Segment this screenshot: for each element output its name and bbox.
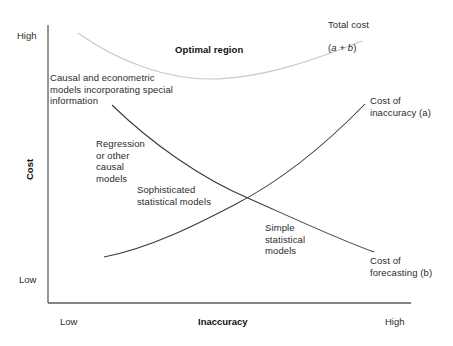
annotation-optimal-region: Optimal region	[175, 44, 243, 56]
x-axis-tick-low: Low	[60, 316, 77, 327]
annotation-total-cost: Total cost (a + b)	[328, 7, 369, 65]
y-axis-tick-high: High	[17, 30, 37, 41]
annotation-total-cost-line1: Total cost	[328, 19, 369, 31]
annotation-simple-models: Simple statistical models	[265, 222, 305, 257]
annotation-causal-models: Causal and econometric models incorporat…	[50, 72, 173, 107]
annotation-total-cost-line2: (a + b)	[328, 42, 369, 54]
curve-cost-of-forecasting	[112, 105, 374, 252]
x-axis-title: Inaccuracy	[198, 316, 248, 327]
y-axis-tick-low: Low	[19, 274, 36, 285]
y-axis-title: Cost	[24, 159, 35, 180]
total-cost-paren-close: )	[353, 42, 356, 53]
annotation-cost-of-forecasting: Cost of forecasting (b)	[370, 255, 432, 278]
x-axis-tick-high: High	[385, 316, 405, 327]
total-cost-plus: +	[337, 42, 348, 53]
annotation-cost-of-inaccuracy: Cost of inaccuracy (a)	[370, 95, 431, 118]
annotation-regression-models: Regression or other causal models	[96, 138, 145, 184]
annotation-sophisticated-models: Sophisticated statistical models	[137, 184, 211, 207]
forecasting-cost-chart: Total cost (a + b) Optimal region Causal…	[0, 0, 453, 346]
